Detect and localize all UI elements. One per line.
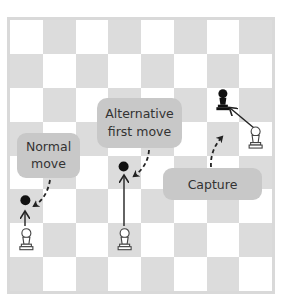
dashed-arrow-capture	[211, 137, 222, 167]
callout-capture: Capture	[163, 168, 262, 200]
target-dot-icon	[119, 161, 129, 171]
white-pawn-icon	[118, 229, 131, 250]
dashed-arrow-alternative	[134, 150, 149, 176]
callout-normal-line2: move	[31, 156, 66, 171]
callout-normal-line1: Normal	[26, 139, 71, 154]
diagram-overlay: Normal move Alternative first move Captu…	[0, 0, 281, 306]
white-pawn-icon	[249, 127, 262, 148]
callout-alternative-line1: Alternative	[105, 106, 174, 121]
dashed-arrow-normal	[34, 180, 50, 206]
callout-alternative-line2: first move	[108, 124, 172, 139]
move-arrow-capture	[230, 108, 254, 128]
target-dot-icon	[20, 195, 30, 205]
callout-normal-move: Normal move	[17, 133, 80, 178]
callout-alternative-first-move: Alternative first move	[97, 98, 182, 148]
callout-capture-label: Capture	[188, 177, 238, 192]
white-pawn-icon	[20, 229, 33, 250]
black-pawn-icon	[216, 89, 229, 110]
